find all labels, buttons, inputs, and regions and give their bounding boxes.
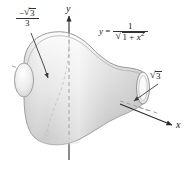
right-bound-radicand: 3 — [155, 71, 162, 81]
radicand-constant: 1 + — [123, 32, 137, 42]
equation-fraction: 1 1 + x2 — [113, 22, 149, 42]
radicand-exponent: 2 — [141, 30, 145, 38]
left-bound-radicand: 3 — [29, 8, 36, 18]
equation-lhs: y — [99, 26, 103, 36]
label-left-bound: −3 3 — [16, 8, 39, 28]
figure-canvas: y x y = 1 1 + x2 −3 3 3 — [0, 0, 190, 172]
left-bound-numerator: −3 — [16, 8, 39, 18]
sqrt-icon-left: 3 — [24, 8, 36, 18]
surface-of-revolution — [14, 32, 149, 145]
equation-label: y = 1 1 + x2 — [99, 22, 148, 42]
equation-equals: = — [105, 26, 110, 36]
left-bound-denominator: 3 — [16, 18, 39, 28]
x-axis — [120, 104, 172, 125]
axis-y-label: y — [66, 4, 70, 14]
label-right-bound: 3 — [150, 71, 162, 81]
equation-denominator: 1 + x2 — [113, 31, 149, 42]
radical-icon: 1 + x2 — [116, 32, 146, 42]
left-bound-fraction: −3 3 — [16, 8, 39, 28]
sqrt-icon-right: 3 — [150, 71, 162, 81]
radicand: 1 + x2 — [122, 32, 146, 42]
axis-x-label: x — [176, 120, 180, 130]
